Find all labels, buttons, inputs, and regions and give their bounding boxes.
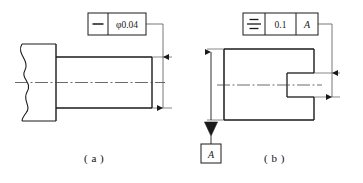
leader-line-to-slot-top (318, 24, 332, 73)
panel-a-caption: ( a ) (84, 152, 104, 164)
datum-a-label: A (207, 149, 215, 160)
panel-b-leader (318, 24, 332, 97)
panel-b-datum-leader: A (201, 49, 224, 163)
panel-a-leader (146, 24, 163, 108)
fcf-tolerance-value: φ0.04 (116, 20, 138, 30)
fcf-tolerance-value: 0.1 (275, 20, 287, 30)
technical-drawing-svg: φ0.04 (0, 0, 363, 183)
datum-triangle-icon (205, 122, 218, 136)
leader-line-to-top-surface (146, 24, 163, 57)
drawing-canvas: φ0.04 (0, 0, 363, 183)
panel-a-feature-control-frame[interactable]: φ0.04 (88, 13, 146, 35)
panel-a-part-outline (15, 44, 165, 121)
panel-b-part-outline (217, 49, 322, 120)
fcf-datum-reference: A (303, 19, 311, 30)
panel-b-caption: ( b ) (264, 152, 285, 164)
panel-b-feature-control-frame[interactable]: 0.1 A (243, 13, 318, 35)
